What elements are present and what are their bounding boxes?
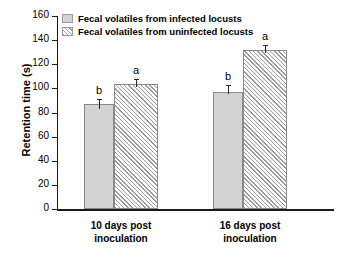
legend-swatch-hatch-icon: [62, 27, 73, 36]
x-axis-line: [57, 209, 334, 211]
y-axis-line: [57, 16, 58, 209]
error-bar-g1-infected: [99, 99, 100, 109]
y-tick-20: 20: [52, 185, 57, 186]
y-tick-160: 160: [52, 16, 57, 17]
x-category-label-1-line1: 10 days post: [61, 219, 181, 232]
x-category-label-1-line2: inoculation: [61, 232, 181, 245]
error-bar-g2-uninfected: [265, 45, 266, 53]
y-tick-80: 80: [52, 113, 57, 114]
bar-chart: Retention time (s) 0 20 40 60 80 100 120…: [0, 0, 342, 253]
x-category-label-2-line2: inoculation: [190, 232, 310, 245]
x-category-label-2-line1: 16 days post: [190, 219, 310, 232]
legend-label-uninfected: Fecal volatiles from uninfected locusts: [78, 26, 253, 37]
y-axis-label: Retention time (s): [20, 30, 32, 190]
bar-g1-uninfected: [114, 84, 158, 210]
error-cap-g2-uninfected: [263, 45, 268, 46]
y-tick-label-20: 20: [38, 178, 49, 189]
error-bar-g2-infected: [228, 85, 229, 94]
y-tick-label-100: 100: [32, 81, 49, 92]
y-tick-label-0: 0: [43, 202, 49, 213]
x-category-label-1: 10 days post inoculation: [61, 219, 181, 245]
significance-letter-g1-infected: b: [89, 84, 109, 96]
y-tick-label-80: 80: [38, 106, 49, 117]
y-tick-120: 120: [52, 64, 57, 65]
significance-letter-g2-uninfected: a: [255, 30, 275, 42]
y-tick-140: 140: [52, 40, 57, 41]
x-category-label-2: 16 days post inoculation: [190, 219, 310, 245]
error-cap-g2-infected: [226, 85, 231, 86]
error-cap-g1-infected: [97, 99, 102, 100]
chart-legend: Fecal volatiles from infected locusts Fe…: [62, 12, 253, 38]
y-tick-0: 0: [52, 209, 57, 210]
error-bar-g1-uninfected: [136, 79, 137, 87]
y-tick-label-60: 60: [38, 130, 49, 141]
y-tick-label-140: 140: [32, 33, 49, 44]
legend-item-uninfected: Fecal volatiles from uninfected locusts: [62, 25, 253, 38]
significance-letter-g1-uninfected: a: [126, 64, 146, 76]
bar-g2-infected: [213, 92, 243, 209]
plot-area: 0 20 40 60 80 100 120 140 160 b: [57, 16, 334, 209]
y-tick-label-160: 160: [32, 9, 49, 20]
significance-letter-g2-infected: b: [218, 70, 238, 82]
y-tick-100: 100: [52, 88, 57, 89]
y-tick-label-120: 120: [32, 57, 49, 68]
y-tick-label-40: 40: [38, 154, 49, 165]
bar-g2-uninfected: [243, 50, 287, 209]
y-tick-40: 40: [52, 161, 57, 162]
legend-item-infected: Fecal volatiles from infected locusts: [62, 12, 253, 25]
y-tick-60: 60: [52, 137, 57, 138]
error-cap-g1-uninfected: [134, 79, 139, 80]
legend-swatch-solid-icon: [62, 14, 73, 23]
bar-g1-infected: [84, 104, 114, 209]
legend-label-infected: Fecal volatiles from infected locusts: [78, 13, 242, 24]
